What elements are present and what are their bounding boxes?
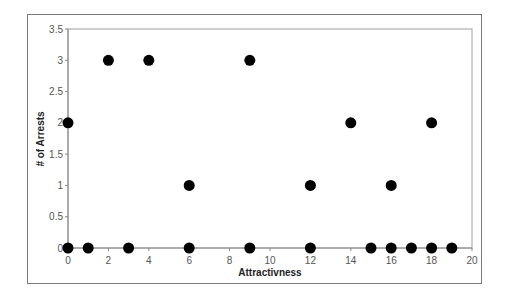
scatter-plot: 00.511.522.533.5 02468101214161820 Attra… xyxy=(0,0,511,307)
data-point xyxy=(244,55,255,66)
y-tick-label: 3 xyxy=(57,55,63,66)
x-tick-label: 16 xyxy=(386,255,398,266)
x-tick-label: 2 xyxy=(106,255,112,266)
data-point xyxy=(406,243,417,254)
data-point xyxy=(386,180,397,191)
y-tick-label: 0.5 xyxy=(49,211,63,222)
data-point xyxy=(63,117,74,128)
data-point xyxy=(305,243,316,254)
data-point xyxy=(446,243,457,254)
data-point xyxy=(184,243,195,254)
data-point xyxy=(83,243,94,254)
y-tick-label: 2.5 xyxy=(49,86,63,97)
x-tick-label: 12 xyxy=(305,255,317,266)
y-tick-label: 1.5 xyxy=(49,149,63,160)
x-tick-label: 4 xyxy=(146,255,152,266)
x-tick-label: 10 xyxy=(264,255,276,266)
plot-background xyxy=(68,29,472,248)
data-point xyxy=(103,55,114,66)
data-point xyxy=(305,180,316,191)
x-axis-title: Attractivness xyxy=(238,267,302,278)
x-tick-label: 0 xyxy=(65,255,71,266)
data-point xyxy=(184,180,195,191)
y-tick-label: 1 xyxy=(57,180,63,191)
x-tick-label: 18 xyxy=(426,255,438,266)
data-point xyxy=(426,243,437,254)
x-tick-label: 20 xyxy=(466,255,478,266)
data-point xyxy=(366,243,377,254)
y-axis-title: # of Arrests xyxy=(35,111,46,167)
data-point xyxy=(123,243,134,254)
x-tick-label: 8 xyxy=(227,255,233,266)
y-axis-ticks: 00.511.522.533.5 xyxy=(49,24,68,254)
data-point xyxy=(386,243,397,254)
y-tick-label: 3.5 xyxy=(49,24,63,35)
x-tick-label: 6 xyxy=(186,255,192,266)
data-point xyxy=(63,243,74,254)
x-tick-label: 14 xyxy=(345,255,357,266)
data-point xyxy=(143,55,154,66)
plot-area xyxy=(68,29,472,248)
data-point xyxy=(244,243,255,254)
data-point xyxy=(426,117,437,128)
data-point xyxy=(345,117,356,128)
